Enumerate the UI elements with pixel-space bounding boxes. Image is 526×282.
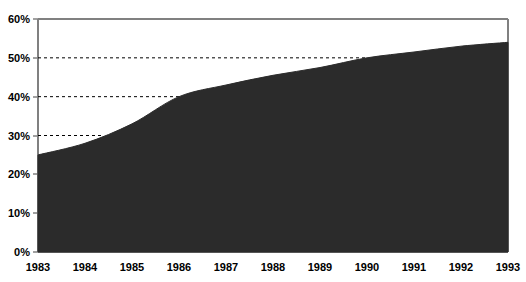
y-tick-label-30: 30% xyxy=(8,130,30,142)
y-tick-label-60: 60% xyxy=(8,13,30,25)
x-tick-label-1993: 1993 xyxy=(496,261,520,273)
x-tick-label-1991: 1991 xyxy=(402,261,426,273)
y-tick-label-20: 20% xyxy=(8,168,30,180)
area-chart: 60% 50% 40% 30% 20% 10% 0% 1983 1984 198… xyxy=(0,0,526,282)
chart-container: 60% 50% 40% 30% 20% 10% 0% 1983 1984 198… xyxy=(0,0,526,282)
x-tick-label-1986: 1986 xyxy=(167,261,191,273)
y-tick-label-50: 50% xyxy=(8,52,30,64)
x-tick-label-1990: 1990 xyxy=(355,261,379,273)
y-tick-label-0: 0% xyxy=(14,246,30,258)
x-tick-label-1985: 1985 xyxy=(120,261,144,273)
y-tick-label-40: 40% xyxy=(8,91,30,103)
x-tick-label-1987: 1987 xyxy=(214,261,238,273)
x-tick-label-1983: 1983 xyxy=(26,261,50,273)
x-tick-label-1992: 1992 xyxy=(449,261,473,273)
x-tick-label-1988: 1988 xyxy=(261,261,285,273)
y-tick-label-10: 10% xyxy=(8,207,30,219)
x-tick-label-1989: 1989 xyxy=(308,261,332,273)
x-tick-label-1984: 1984 xyxy=(73,261,98,273)
